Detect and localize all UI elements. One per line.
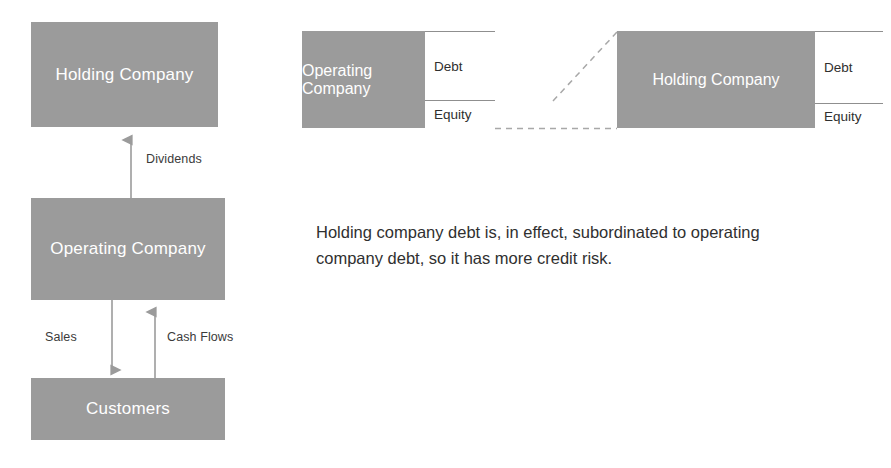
balance-sheet-holding-company-entity-label: Holding Company: [652, 71, 779, 89]
balance-sheet-operating-company-capital: Debt Equity: [425, 31, 495, 128]
balance-sheet-holding-company-capital: Debt Equity: [815, 31, 883, 128]
node-holding-company[interactable]: Holding Company: [31, 22, 218, 127]
balance-sheet-holding-company[interactable]: Holding Company Debt Equity: [617, 31, 883, 128]
arrow-label-dividends: Dividends: [146, 152, 202, 166]
arrow-label-sales: Sales: [45, 330, 77, 344]
capital-cell-operating-equity-label: Equity: [434, 107, 472, 122]
capital-cell-holding-equity-label: Equity: [824, 109, 862, 124]
balance-sheet-operating-company[interactable]: Operating Company Debt Equity: [302, 31, 495, 128]
balance-sheet-operating-company-assets: Operating Company: [302, 31, 425, 128]
node-customers[interactable]: Customers: [31, 378, 225, 440]
capital-cell-operating-debt-label: Debt: [434, 59, 463, 74]
diagram-canvas: Holding Company Operating Company Custom…: [0, 0, 891, 468]
node-holding-company-label: Holding Company: [55, 65, 193, 85]
balance-sheet-operating-company-entity-label: Operating Company: [302, 62, 425, 98]
capital-cell-holding-debt: Debt: [815, 31, 883, 103]
explanatory-note: Holding company debt is, in effect, subo…: [316, 219, 786, 271]
node-customers-label: Customers: [86, 399, 170, 419]
capital-cell-holding-debt-label: Debt: [824, 60, 853, 75]
subordination-connector: [495, 32, 617, 129]
arrow-label-cash-flows: Cash Flows: [167, 330, 233, 344]
capital-cell-holding-equity: Equity: [815, 103, 883, 128]
balance-sheet-holding-company-assets: Holding Company: [617, 31, 815, 128]
capital-cell-operating-debt: Debt: [425, 31, 495, 100]
node-operating-company[interactable]: Operating Company: [31, 198, 225, 300]
node-operating-company-label: Operating Company: [50, 239, 206, 259]
capital-cell-operating-equity: Equity: [425, 100, 495, 128]
